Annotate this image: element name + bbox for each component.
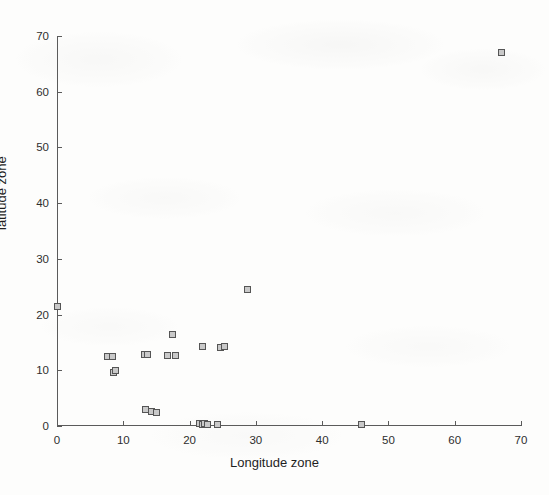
y-tick-label: 60 xyxy=(23,86,49,98)
x-tick-label: 0 xyxy=(54,434,60,446)
data-point xyxy=(221,343,228,350)
y-tick-label: 20 xyxy=(23,309,49,321)
y-tick xyxy=(57,203,62,204)
data-point xyxy=(112,367,119,374)
y-tick-label: 40 xyxy=(23,197,49,209)
plot-area: 010203040506070 010203040506070 xyxy=(57,36,521,426)
x-tick xyxy=(388,421,389,426)
x-axis-label: Longitude zone xyxy=(0,455,549,470)
data-point xyxy=(358,421,365,428)
x-tick xyxy=(455,421,456,426)
scatter-plot-figure: 010203040506070 010203040506070 Longitud… xyxy=(0,0,549,495)
y-tick xyxy=(57,370,62,371)
x-tick-label: 20 xyxy=(183,434,196,446)
x-tick xyxy=(256,421,257,426)
x-tick xyxy=(190,421,191,426)
data-point xyxy=(172,352,179,359)
y-tick-label: 0 xyxy=(23,420,49,432)
y-tick xyxy=(57,259,62,260)
data-point xyxy=(164,352,171,359)
data-point xyxy=(244,286,251,293)
x-tick-label: 60 xyxy=(448,434,461,446)
y-tick-label: 70 xyxy=(23,30,49,42)
data-point xyxy=(54,303,61,310)
y-tick xyxy=(57,92,62,93)
y-tick xyxy=(57,36,62,37)
x-tick xyxy=(123,421,124,426)
data-point xyxy=(204,421,211,428)
x-tick-label: 10 xyxy=(117,434,130,446)
x-axis-line xyxy=(57,425,521,426)
x-tick-label: 40 xyxy=(316,434,329,446)
y-tick-label: 10 xyxy=(23,364,49,376)
data-point xyxy=(153,409,160,416)
y-tick xyxy=(57,426,62,427)
x-tick xyxy=(322,421,323,426)
x-tick-label: 50 xyxy=(382,434,395,446)
x-tick-label: 30 xyxy=(249,434,262,446)
x-tick xyxy=(521,421,522,426)
data-point xyxy=(498,49,505,56)
y-tick-label: 50 xyxy=(23,141,49,153)
data-point xyxy=(214,421,221,428)
data-point xyxy=(169,331,176,338)
y-axis-line xyxy=(57,36,58,426)
data-point xyxy=(109,353,116,360)
x-tick-label: 70 xyxy=(515,434,528,446)
data-point xyxy=(199,343,206,350)
data-point xyxy=(144,351,151,358)
y-tick xyxy=(57,147,62,148)
y-tick xyxy=(57,315,62,316)
y-axis-label: latitude zone xyxy=(0,156,9,230)
y-tick-label: 30 xyxy=(23,253,49,265)
